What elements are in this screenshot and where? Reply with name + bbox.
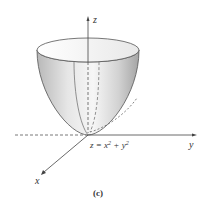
y-axis-label: y [188,139,194,150]
z-axis-label: z [92,14,97,25]
paraboloid-diagram: z y x z = x2 + y2 (c) [0,0,205,207]
x-axis [44,135,88,172]
figure-caption: (c) [93,188,103,198]
y-axis-arrow-icon [192,134,197,137]
equation-label: z = x2 + y2 [89,140,129,150]
z-axis-arrow-icon [87,16,90,21]
x-axis-label: x [34,175,40,186]
